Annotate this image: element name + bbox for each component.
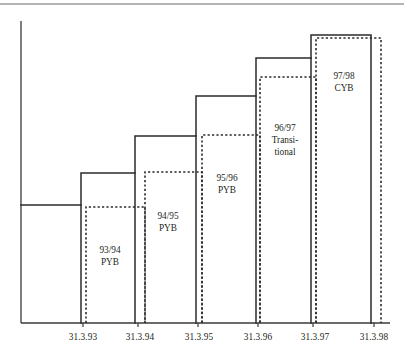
x-axis-label-31.3.96: 31.3.96	[244, 332, 273, 342]
dashed-bar-3	[202, 135, 260, 323]
bar-label-line: 94/95	[157, 211, 179, 221]
dashed-bar-4	[260, 77, 316, 323]
bar-label-bar-97-98: 97/98CYB	[333, 71, 355, 93]
bar-label-line: PYB	[159, 223, 177, 233]
bar-label-line: Transi-	[272, 135, 299, 145]
bar-label-line: PYB	[101, 257, 119, 267]
staircase-bar-chart: 31.3.9331.3.9431.3.9531.3.9631.3.9731.3.…	[0, 0, 404, 364]
bar-label-line: 95/96	[216, 173, 238, 183]
dashed-bar-2	[145, 172, 202, 323]
bar-label-line: tional	[274, 147, 296, 157]
x-axis-label-31.3.93: 31.3.93	[69, 332, 98, 342]
bar-label-bar-95-96: 95/96PYB	[216, 173, 238, 195]
x-axis-label-31.3.94: 31.3.94	[126, 332, 155, 342]
x-axis-label-31.3.95: 31.3.95	[185, 332, 214, 342]
x-axis-label-31.3.98: 31.3.98	[360, 332, 389, 342]
bar-label-bar-96-97: 96/97Transi-tional	[272, 123, 299, 157]
bar-label-line: PYB	[218, 185, 236, 195]
x-axis-tick-labels: 31.3.9331.3.9431.3.9531.3.9631.3.9731.3.…	[69, 332, 389, 342]
solid-step-bars	[21, 35, 371, 323]
bar-label-line: 97/98	[333, 71, 355, 81]
bar-label-line: 93/94	[99, 245, 121, 255]
bar-label-line: 96/97	[274, 123, 296, 133]
bar-label-line: CYB	[334, 83, 353, 93]
bar-label-bar-93-94: 93/94PYB	[99, 245, 121, 267]
x-axis-label-31.3.97: 31.3.97	[301, 332, 330, 342]
chart-container: 31.3.9331.3.9431.3.9531.3.9631.3.9731.3.…	[0, 0, 404, 364]
bar-label-bar-94-95: 94/95PYB	[157, 211, 179, 233]
